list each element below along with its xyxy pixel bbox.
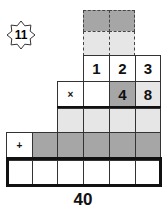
multiplier-digit: 4 — [109, 81, 136, 107]
multiplier-digit — [83, 81, 110, 107]
partial-product-cell[interactable] — [135, 108, 161, 133]
partial-product-cell[interactable] — [83, 132, 110, 159]
multiply-operator: × — [57, 81, 84, 107]
partial-product-cell[interactable] — [57, 132, 84, 159]
multiplicand-digit: 3 — [135, 55, 161, 82]
multiplicand-digit: 1 — [83, 55, 110, 82]
multiplicand-digit: 2 — [109, 55, 136, 82]
problem-number: 11 — [6, 20, 36, 50]
result-value: 40 — [0, 190, 166, 210]
answer-row-border — [6, 157, 162, 187]
partial-product-cell[interactable] — [109, 108, 136, 133]
partial-product-cell[interactable] — [109, 132, 136, 159]
partial-product-cell[interactable] — [135, 132, 161, 159]
add-operator: + — [6, 132, 33, 159]
carry-cell[interactable] — [83, 31, 110, 56]
partial-product-cell[interactable] — [57, 108, 84, 133]
carry-cell[interactable] — [83, 10, 110, 32]
carry-cell[interactable] — [109, 10, 135, 32]
partial-product-cell[interactable] — [32, 132, 58, 159]
carry-cell[interactable] — [109, 31, 135, 56]
problem-number-badge: 11 — [6, 20, 36, 50]
partial-product-cell[interactable] — [83, 108, 110, 133]
multiplier-digit: 8 — [135, 81, 161, 107]
